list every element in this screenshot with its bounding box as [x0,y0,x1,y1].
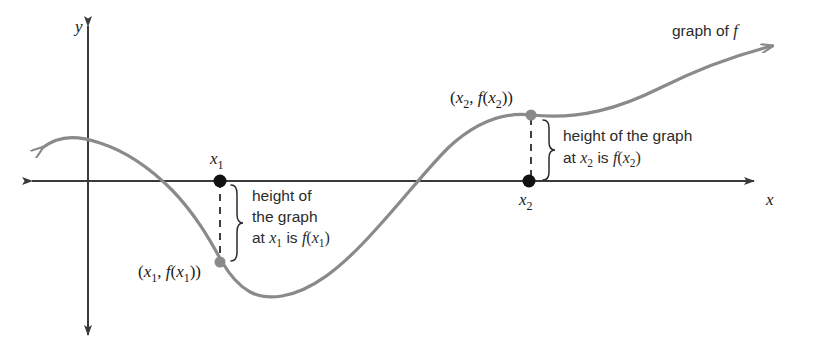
x1-coordinate-label: (x1, f(x1)) [138,262,201,285]
diagram-canvas: x y graph of f x1 (x1, f(x1)) height of … [0,0,816,362]
x-axis-label: x [765,190,774,209]
graph-of-f-label: graph of f [672,21,740,40]
x1-curve-dot [215,257,226,268]
x1-note-line-1: height of [252,187,312,204]
x1-note-line-2: the graph [252,208,318,225]
x1-brace [231,185,243,261]
graph-of-f-text: graph of [672,22,733,39]
x2-note-line-2: at x2 is f(x2) [563,149,641,169]
x2-axis-dot [523,175,536,188]
x1-note-line-3: at x1 is f(x1) [252,229,330,249]
x2-brace [543,120,555,180]
x1-axis-point-label: x1 [209,149,224,172]
x1-axis-dot [214,175,227,188]
function-curve-group: graph of f [42,21,772,297]
x2-curve-dot [526,110,537,121]
x2-coordinate-label: (x2, f(x2)) [450,88,513,111]
x2-axis-point-label: x2 [518,190,533,213]
x2-annotation-group: x2 (x2, f(x2)) height of the graph at x2… [450,88,692,213]
x1-annotation-group: x1 (x1, f(x1)) height of the graph at x1… [138,149,330,285]
function-graph-figure: x y graph of f x1 (x1, f(x1)) height of … [0,0,816,362]
function-curve [42,46,772,297]
y-axis-label: y [73,17,83,36]
axes-group: x y [32,17,774,335]
x2-note-line-1: height of the graph [563,127,692,144]
